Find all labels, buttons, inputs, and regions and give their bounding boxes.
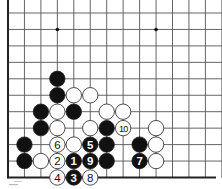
white-stone (50, 120, 65, 135)
white-stone-2: 2 (50, 153, 65, 168)
white-stone (148, 137, 163, 152)
black-stone-7: 7 (132, 153, 147, 168)
black-stone (33, 120, 48, 135)
move-number: 9 (87, 155, 93, 167)
black-stone-5: 5 (83, 137, 98, 152)
black-stone-3: 3 (66, 170, 81, 185)
move-number: 8 (87, 172, 93, 184)
move-number: 5 (87, 139, 94, 151)
black-stone (66, 104, 81, 119)
black-stone (99, 137, 114, 152)
black-stone (33, 104, 48, 119)
move-number: 10 (119, 124, 128, 134)
cropped-caption (9, 181, 22, 185)
black-stone-9: 9 (83, 153, 98, 168)
white-stone (66, 88, 81, 103)
move-number: 3 (71, 172, 77, 184)
black-stone (99, 153, 114, 168)
white-stone (83, 88, 98, 103)
white-stone (66, 137, 81, 152)
move-number: 1 (71, 155, 78, 167)
black-stone-1: 1 (66, 153, 81, 168)
move-number: 4 (54, 172, 61, 184)
black-stone (50, 71, 65, 86)
white-stone (33, 153, 48, 168)
white-stone (83, 120, 98, 135)
white-stone (50, 104, 65, 119)
move-number: 6 (54, 139, 60, 151)
white-stone (115, 104, 130, 119)
star-point (56, 28, 60, 32)
go-board-diagram: 10652197438 (0, 0, 222, 189)
black-stone (50, 88, 65, 103)
board-grid (7, 0, 222, 178)
black-stone (132, 137, 147, 152)
white-stone (148, 153, 163, 168)
white-stone (148, 120, 163, 135)
black-stone (17, 137, 32, 152)
white-stone-8: 8 (83, 170, 98, 185)
white-stone-6: 6 (50, 137, 65, 152)
move-number: 7 (136, 155, 142, 167)
white-stone-10: 10 (115, 120, 130, 135)
star-point (154, 28, 158, 32)
white-stone-4: 4 (50, 170, 65, 185)
black-stone (17, 153, 32, 168)
black-stone (99, 120, 114, 135)
white-stone (99, 104, 114, 119)
move-number: 2 (54, 155, 60, 167)
